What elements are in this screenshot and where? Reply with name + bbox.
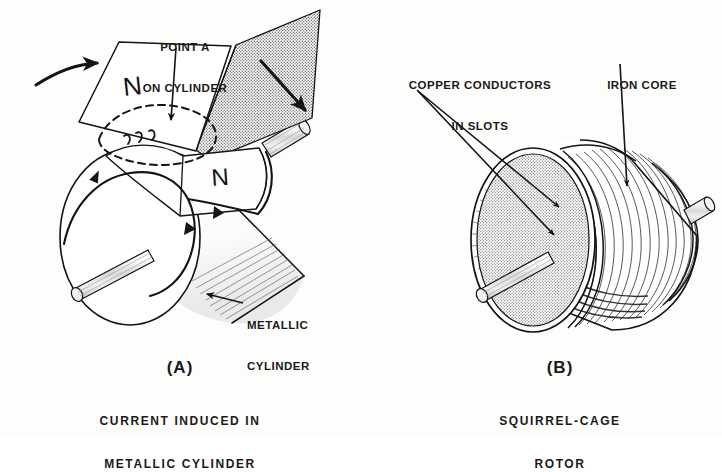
callout-copper-conductors-line2: IN SLOTS <box>382 120 578 134</box>
callout-point-a: POINT A ON CYLINDER <box>120 14 250 123</box>
pole-label-n-lower: N <box>210 163 229 191</box>
callout-metallic-cylinder-line2: CYLINDER <box>247 360 347 374</box>
panel-b-caption-line1: SQUIRREL-CAGE <box>440 414 680 428</box>
field-motion-arrow-left <box>36 63 97 85</box>
callout-iron-core: IRON CORE <box>589 52 695 120</box>
callout-metallic-cylinder-line1: METALLIC <box>247 319 347 333</box>
rotor-front-face <box>477 154 589 326</box>
callout-copper-conductors: COPPER CONDUCTORS IN SLOTS <box>382 52 578 161</box>
squirrel-cage-rotor <box>471 140 717 332</box>
panel-b-letter: (B) <box>495 358 625 378</box>
rotor-shaft-rear <box>684 195 717 224</box>
panel-b-caption-line2: ROTOR <box>440 457 680 471</box>
callout-point-a-line1: POINT A <box>120 41 250 55</box>
panel-a-caption-line1: CURRENT INDUCED IN <box>60 414 300 428</box>
callout-point-a-line2: ON CYLINDER <box>120 82 250 96</box>
panel-a-caption: CURRENT INDUCED IN METALLIC CYLINDER <box>60 386 300 472</box>
callout-copper-conductors-line1: COPPER CONDUCTORS <box>382 79 578 93</box>
callout-iron-core-line1: IRON CORE <box>589 79 695 93</box>
panel-a-letter: (A) <box>115 358 245 378</box>
callout-metallic-cylinder: METALLIC CYLINDER <box>247 292 347 401</box>
panel-a-caption-line2: METALLIC CYLINDER <box>60 457 300 471</box>
panel-b-caption: SQUIRREL-CAGE ROTOR <box>440 386 680 472</box>
